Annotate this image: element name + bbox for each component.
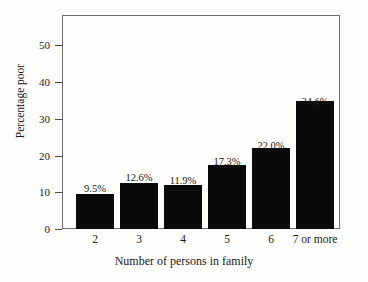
y-tick-label-20: 20 bbox=[28, 151, 50, 162]
y-axis-title: Percentage poor bbox=[14, 41, 26, 161]
plot-area-frame bbox=[62, 15, 340, 229]
y-tick-label-30: 30 bbox=[28, 114, 50, 125]
bar-value-label-2: 9.5% bbox=[68, 183, 122, 195]
bar-value-label-5: 17.3% bbox=[200, 156, 254, 168]
y-tick-mark-20 bbox=[55, 156, 62, 157]
bar-chart-figure: 0 10 20 30 40 50 Percentage poor 9.5% 12… bbox=[0, 0, 368, 282]
y-tick-label-40: 40 bbox=[28, 77, 50, 88]
y-tick-mark-40 bbox=[55, 82, 62, 83]
y-tick-mark-30 bbox=[55, 119, 62, 120]
y-tick-label-50: 50 bbox=[28, 40, 50, 51]
y-tick-mark-10 bbox=[55, 192, 62, 193]
bar-value-label-4: 11.9% bbox=[156, 175, 210, 187]
x-axis-title: Number of persons in family bbox=[0, 254, 368, 269]
y-tick-mark-50 bbox=[55, 45, 62, 46]
y-tick-mark-0 bbox=[55, 229, 62, 230]
bar-value-label-7-or-more: 34.6% bbox=[288, 96, 342, 108]
y-tick-label-0: 0 bbox=[28, 224, 50, 235]
y-tick-label-10: 10 bbox=[28, 187, 50, 198]
x-tick-label-7-or-more: 7 or more bbox=[285, 233, 345, 246]
bar-value-label-6: 22.0% bbox=[244, 140, 298, 152]
